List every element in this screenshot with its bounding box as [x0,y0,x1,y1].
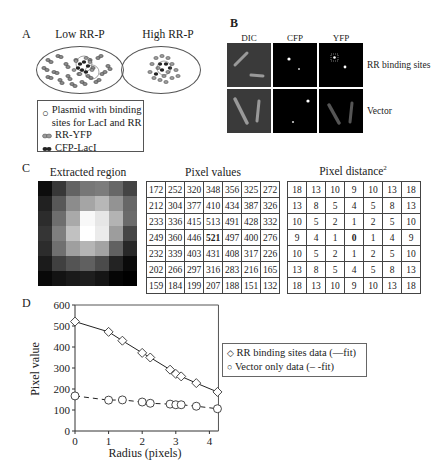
table-cell: 360 [166,230,185,246]
heatmap-cell [66,181,80,196]
table-cell: 188 [223,278,242,294]
table-cell: 1 [345,214,364,230]
x-tick-label: 2 [139,435,145,447]
table-cell: 18 [288,278,307,294]
table-row: 105212510 [288,214,421,230]
y-tick-label: 500 [54,320,71,332]
panel-a-legend: ○ Plasmid with bindingsites for LacI and… [37,100,144,152]
table-cell: 13 [383,278,402,294]
table-cell: 5 [383,214,402,230]
table-cell: 2 [364,214,383,230]
table-cell: 276 [261,230,280,246]
x-tick-label: 3 [173,435,179,447]
y-tick-label: 0 [65,425,71,437]
table-cell: 13 [288,198,307,214]
panel-d-legend: ◇ RR binding sites data (—fit) ○ Vector … [222,343,367,377]
legend-vector-series: ○ Vector only data (– -fit) [227,360,362,374]
row-vector: Vector [367,106,392,116]
heatmap-cell [123,256,137,271]
table-cell: 202 [147,262,166,278]
circle-marker [192,402,200,410]
y-tick-label: 300 [54,362,71,374]
heatmap-cell [80,196,94,211]
low-rrp-title: Low RR-P [40,28,120,40]
heatmap-cell [52,181,66,196]
table-row: 1813109101318 [288,182,421,198]
circle-marker [138,398,146,406]
x-tick-label: 4 [207,435,213,447]
column-cfp: CFP [273,33,317,43]
table-cell: 18 [402,278,421,294]
circle-marker [105,396,113,404]
legend-rr-series: ◇ RR binding sites data (—fit) [227,346,362,360]
open-circle-icon: ○ [42,106,49,120]
table-cell: 4 [307,230,326,246]
dic-rr-image [227,43,271,87]
diamond-marker [146,353,155,362]
heatmap-cell [80,226,94,241]
heatmap-cell [66,256,80,271]
heatmap-cell [123,196,137,211]
heatmap-cell [123,241,137,256]
pixel-distance-superscript: 2 [383,164,387,172]
table-cell: 491 [223,214,242,230]
table-row: 105212510 [288,246,421,262]
heatmap-cell [80,256,94,271]
heatmap-cell [95,271,109,286]
heatmap-cell [80,271,94,286]
table-cell: 13 [307,278,326,294]
gray-dimer-icon [42,133,52,139]
table-cell: 336 [166,214,185,230]
table-row: 232339403431408317226 [147,246,280,262]
heatmap-cell [95,181,109,196]
legend-plasmid-line2: sites for LacI and RR [52,117,142,128]
table-cell: 1 [345,246,364,262]
heatmap-cell [109,241,123,256]
heatmap-cell [66,271,80,286]
circle-marker [71,392,79,400]
table-row: 159184199207188151132 [147,278,280,294]
y-tick-label: 100 [54,404,71,416]
table-cell: 513 [204,214,223,230]
table-cell: 252 [166,182,185,198]
x-tick-label: 1 [106,435,112,447]
heatmap-cell [123,271,137,286]
table-cell: 2 [364,246,383,262]
heatmap-cell [52,211,66,226]
table-cell: 348 [204,182,223,198]
table-cell: 10 [402,246,421,262]
legend-rr-yfp-label: RR-YFP [55,129,92,142]
cfp-rr-image [273,43,317,87]
table-cell: 297 [185,262,204,278]
table-cell: 207 [204,278,223,294]
extracted-region-heatmap [38,181,137,286]
heatmap-cell [123,211,137,226]
heatmap-cell [109,211,123,226]
table-cell: 18 [402,182,421,198]
diamond-marker [213,387,222,396]
table-cell: 10 [326,278,345,294]
table-cell: 521 [204,230,223,246]
table-cell: 339 [166,246,185,262]
circle-marker [146,399,154,407]
y-tick-label: 200 [54,383,71,395]
legend-plasmid-line1: Plasmid with binding [52,104,142,115]
heatmap-cell [52,256,66,271]
table-cell: 1 [326,230,345,246]
table-cell: 410 [204,198,223,214]
heatmap-cell [109,256,123,271]
table-cell: 408 [223,246,242,262]
diamond-marker [192,379,201,388]
table-row: 138545813 [288,198,421,214]
heatmap-cell [123,181,137,196]
heatmap-cell [38,256,52,271]
y-tick-label: 400 [54,341,71,353]
table-cell: 212 [147,198,166,214]
diamond-icon: ◇ [227,348,234,358]
table-cell: 13 [383,182,402,198]
table-cell: 10 [364,278,383,294]
table-cell: 5 [326,198,345,214]
heatmap-cell [109,181,123,196]
cfp-vector-image [273,89,317,133]
diamond-marker [71,317,80,326]
